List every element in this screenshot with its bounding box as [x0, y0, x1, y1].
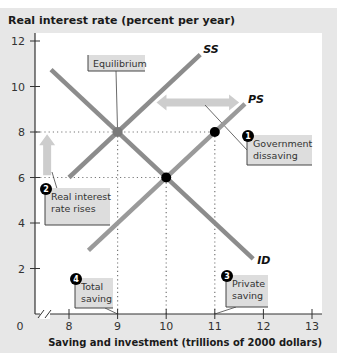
y-axis-title: Real interest rate (percent per year) — [8, 14, 235, 27]
private-saving-point — [210, 127, 220, 137]
private-saving-label-text: saving — [232, 290, 263, 301]
government-dissaving-label-text: Government — [253, 138, 313, 149]
total-saving-label-text: saving — [81, 293, 112, 304]
private-saving-label-text: Private — [232, 278, 265, 289]
x-tick-label: 12 — [256, 320, 270, 333]
curve-label-ps: PS — [248, 93, 264, 106]
x-tick-label: 13 — [305, 320, 319, 333]
total-saving-number: 4 — [73, 275, 79, 284]
government-dissaving-label-text: dissaving — [253, 150, 298, 161]
chart: Real interest rate (percent per year) Sa… — [0, 0, 337, 354]
initial-equilibrium-point — [161, 173, 171, 183]
real-interest-rate-rises-label-text: rate rises — [51, 203, 96, 214]
real-interest-rate-rises-number: 2 — [43, 185, 49, 194]
y-tick-label: 12 — [11, 35, 25, 48]
x-origin-label: 0 — [17, 320, 24, 333]
real-interest-rate-rises-label-text: Real interest — [51, 191, 111, 202]
equilibrium-label-text: Equilibrium — [93, 58, 147, 69]
y-tick-label: 2 — [18, 263, 25, 276]
x-tick-label: 11 — [208, 320, 222, 333]
x-tick-label: 9 — [114, 320, 121, 333]
government-dissaving-number: 1 — [245, 132, 251, 141]
curve-label-ss: SS — [203, 43, 219, 56]
y-tick-label: 8 — [18, 126, 25, 139]
y-tick-label: 6 — [18, 172, 25, 185]
private-saving-number: 3 — [224, 272, 230, 281]
x-tick-label: 8 — [66, 320, 73, 333]
curve-label-id: ID — [257, 254, 270, 267]
y-tick-label: 10 — [11, 81, 25, 94]
x-axis-title: Saving and investment (trillions of 2000… — [48, 337, 322, 348]
x-tick-label: 10 — [159, 320, 173, 333]
y-tick-label: 4 — [18, 217, 25, 230]
total-saving-label-text: Total — [80, 281, 103, 292]
equilibrium-point — [113, 127, 123, 137]
